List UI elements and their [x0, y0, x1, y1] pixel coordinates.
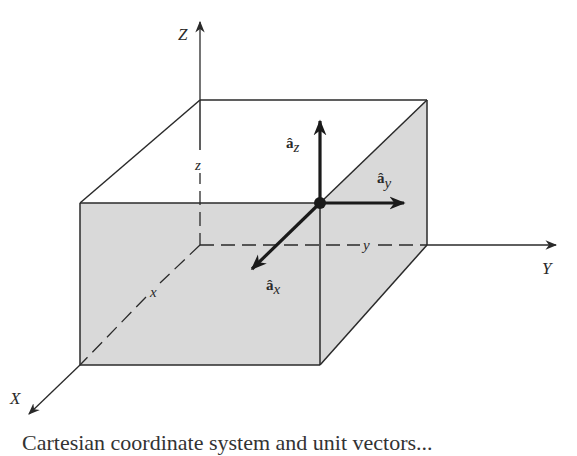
point-marker — [314, 197, 326, 209]
x-axis — [29, 365, 80, 414]
x-axis-label: X — [9, 389, 21, 408]
z-axis-label: Z — [178, 25, 188, 44]
box-shaded-faces — [80, 100, 427, 365]
front-face — [80, 203, 320, 365]
figure-caption-clipped: Cartesian coordinate system and unit vec… — [22, 430, 577, 456]
y-coord-label: y — [361, 237, 370, 253]
x-coord-label: x — [149, 284, 157, 300]
y-axis-label: Y — [542, 259, 553, 278]
z-coord-label: z — [194, 157, 201, 173]
